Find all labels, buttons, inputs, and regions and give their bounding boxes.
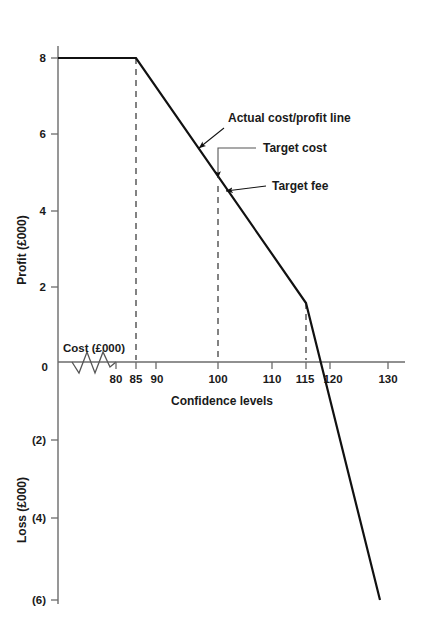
x-tick-label-100: 100	[208, 373, 227, 385]
y-axis-title-profit: Profit (£000)	[15, 215, 29, 284]
y-tick-label-0: 0	[42, 361, 48, 373]
y-tick-label-neg6: (6)	[32, 594, 46, 606]
chart-background	[0, 0, 427, 641]
y-tick-label-neg2: (2)	[32, 434, 46, 446]
x-tick-label-90: 90	[151, 373, 164, 385]
y-tick-label-neg4: (4)	[32, 512, 46, 524]
x-tick-label-85: 85	[130, 373, 143, 385]
y-axis-title-loss: Loss (£000)	[15, 477, 29, 543]
x-tick-label-110: 110	[263, 373, 282, 385]
y-tick-label-8: 8	[40, 52, 47, 64]
annotation-label-actual-line: Actual cost/profit line	[228, 111, 351, 125]
y-tick-label-2: 2	[40, 281, 46, 293]
x-tick-label-115: 115	[296, 373, 315, 385]
cost-inline-label: Cost (£000)	[63, 342, 125, 354]
x-tick-label-130: 130	[378, 373, 397, 385]
x-axis-title: Confidence levels	[171, 394, 273, 408]
cost-profit-line-chart: 8 6 4 2 0 (2) (4) (6) Profit (£000) Loss…	[0, 0, 427, 641]
y-tick-label-4: 4	[40, 205, 47, 217]
x-tick-label-80: 80	[110, 373, 123, 385]
annotation-label-target-cost: Target cost	[263, 141, 327, 155]
chart-container: 8 6 4 2 0 (2) (4) (6) Profit (£000) Loss…	[0, 0, 427, 641]
annotation-label-target-fee: Target fee	[272, 179, 329, 193]
y-tick-label-6: 6	[40, 128, 46, 140]
